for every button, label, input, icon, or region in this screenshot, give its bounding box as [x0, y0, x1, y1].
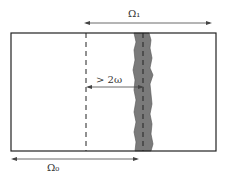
domain-rectangle — [11, 33, 216, 151]
distance-label: > 2ω — [96, 74, 122, 85]
omega1-arrow — [84, 21, 212, 25]
omega0-arrow — [11, 157, 139, 161]
domain-diagram — [0, 0, 227, 177]
omega1-label: Ω₁ — [128, 8, 140, 19]
omega0-label: Ω₀ — [47, 162, 59, 173]
